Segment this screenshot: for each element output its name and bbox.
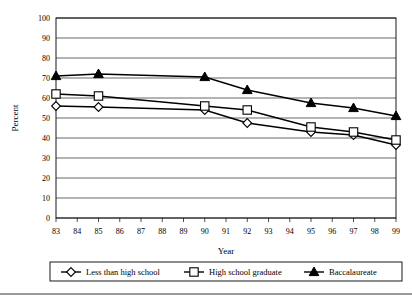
x-axis-tick-label: 83 [52, 227, 60, 236]
chart-container: 0102030405060708090100 83848586878889909… [0, 0, 412, 299]
x-axis-tick-label: 89 [180, 227, 188, 236]
legend-label: Less than high school [86, 267, 161, 277]
legend: Less than high schoolHigh school graduat… [61, 267, 377, 277]
x-axis-tick-label: 84 [73, 227, 81, 236]
x-axis-tick-label: 97 [350, 227, 358, 236]
x-axis-tick-label: 87 [137, 227, 145, 236]
y-axis-tick-label: 60 [42, 94, 50, 103]
x-axis-tick-label: 88 [158, 227, 166, 236]
legend-item-3: Baccalaureate [304, 267, 377, 277]
legend-item-2: High school graduate [184, 267, 282, 277]
y-axis-tick-label: 10 [42, 194, 50, 203]
x-axis-tick-label: 92 [243, 227, 251, 236]
y-axis-tick-label: 50 [42, 114, 50, 123]
line-chart: 0102030405060708090100 83848586878889909… [0, 0, 412, 299]
data-point [94, 92, 102, 100]
y-axis-tick-label: 30 [42, 154, 50, 163]
y-axis-tick-label: 40 [42, 134, 50, 143]
y-axis-title: Percent [10, 104, 20, 131]
x-axis-tick-label: 90 [201, 227, 209, 236]
data-point [243, 106, 251, 114]
x-axis-tick-label: 99 [392, 227, 400, 236]
legend-label: High school graduate [209, 267, 282, 277]
x-axis-tick-label: 91 [222, 227, 230, 236]
x-axis-tick-label: 95 [307, 227, 315, 236]
x-axis-tick-label: 94 [286, 227, 294, 236]
y-axis-tick-label: 90 [42, 34, 50, 43]
legend-label: Baccalaureate [329, 267, 377, 277]
x-axis-tick-label: 86 [116, 227, 124, 236]
x-axis-title: Year [218, 246, 235, 256]
x-axis-tick-label: 98 [371, 227, 379, 236]
data-point [349, 128, 357, 136]
legend-marker [190, 268, 198, 276]
y-axis-tick-label: 70 [42, 74, 50, 83]
y-axis-tick-label: 20 [42, 174, 50, 183]
data-point [52, 90, 60, 98]
y-axis-tick-label: 100 [38, 14, 50, 23]
x-axis-tick-label: 96 [328, 227, 336, 236]
data-point [201, 102, 209, 110]
chart-background [0, 0, 412, 299]
x-axis-tick-label: 85 [95, 227, 103, 236]
data-point [392, 136, 400, 144]
y-axis-tick-label: 0 [46, 214, 50, 223]
x-axis-tick-label: 93 [265, 227, 273, 236]
data-point [307, 123, 315, 131]
y-axis-tick-label: 80 [42, 54, 50, 63]
